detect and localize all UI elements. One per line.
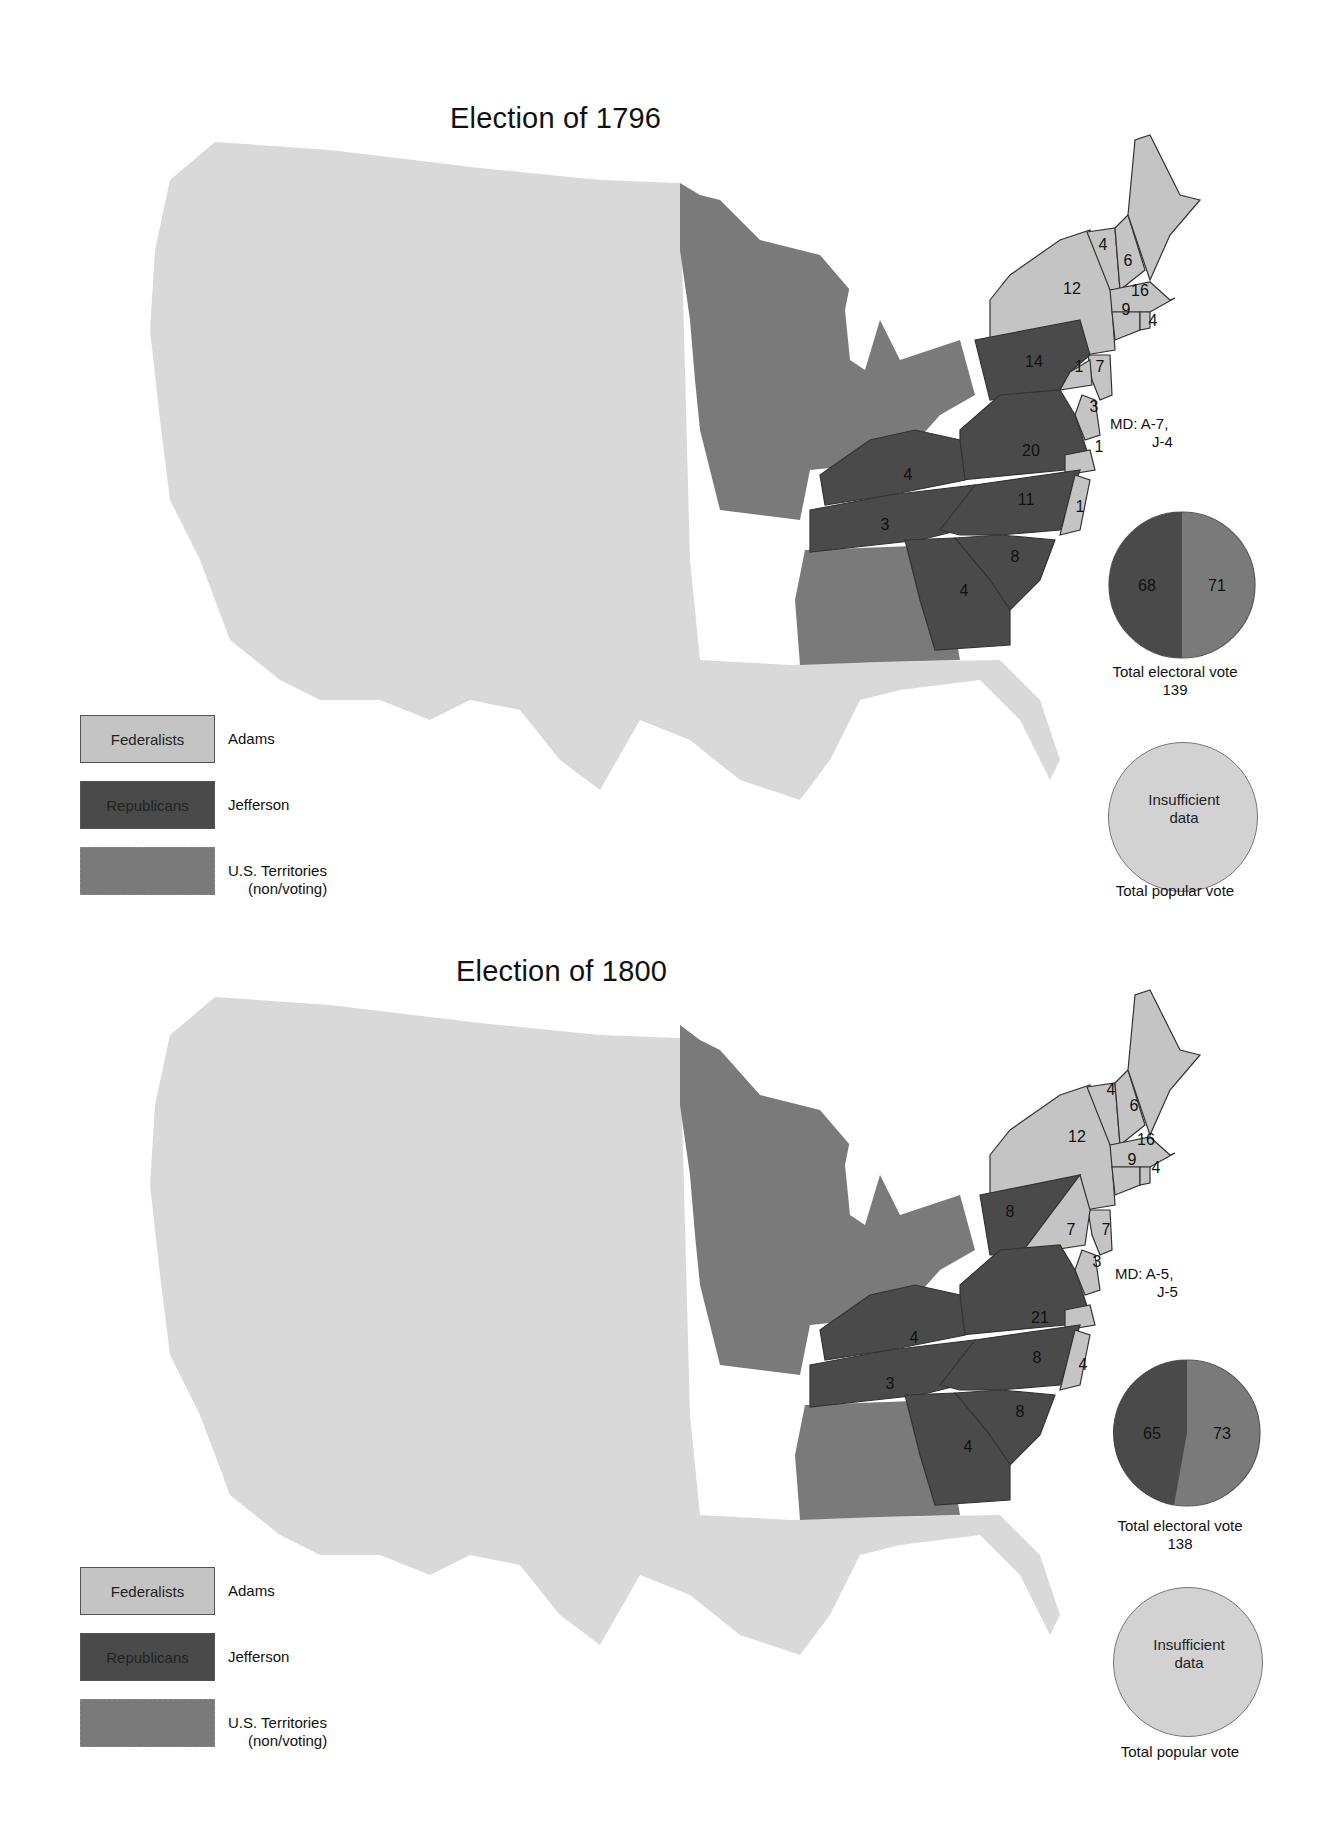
svg-text:4: 4	[960, 582, 969, 599]
svg-text:3: 3	[881, 516, 890, 533]
electoral-vote-label: Total electoral vote 139	[1090, 663, 1260, 699]
svg-text:1: 1	[1076, 498, 1085, 515]
svg-text:8: 8	[1016, 1403, 1025, 1420]
election-1800-panel: Election of 1800 4 6 12 16 9 4 8 7	[0, 855, 1335, 1755]
svg-text:4: 4	[1107, 1081, 1116, 1098]
svg-text:3: 3	[886, 1375, 895, 1392]
svg-text:4: 4	[904, 466, 913, 483]
maryland-split-note: MD: A-5, J-5	[1115, 1265, 1178, 1301]
svg-text:73: 73	[1213, 1425, 1231, 1442]
svg-text:4: 4	[1152, 1159, 1161, 1176]
svg-text:21: 21	[1031, 1309, 1049, 1326]
svg-text:9: 9	[1128, 1151, 1137, 1168]
svg-text:7: 7	[1102, 1221, 1111, 1238]
popular-vote-label: Total popular vote	[1095, 1743, 1265, 1760]
state-CT	[1112, 1167, 1140, 1195]
svg-text:4: 4	[964, 1438, 973, 1455]
svg-text:4: 4	[1149, 312, 1158, 329]
md-note-line1: MD: A-7,	[1110, 415, 1168, 432]
md-note-line2: J-4	[1110, 433, 1173, 451]
svg-text:68: 68	[1138, 577, 1156, 594]
federalists-swatch: Federalists	[80, 715, 215, 763]
svg-text:8: 8	[1006, 1203, 1015, 1220]
electoral-vote-pie: 65 73	[1112, 1358, 1262, 1508]
svg-text:4: 4	[910, 1329, 919, 1346]
svg-text:7: 7	[1067, 1221, 1076, 1238]
svg-text:1: 1	[1075, 358, 1084, 375]
election-1796-panel: Election of 1796	[0, 0, 1335, 900]
svg-text:16: 16	[1137, 1131, 1155, 1148]
svg-text:65: 65	[1143, 1425, 1161, 1442]
svg-text:3: 3	[1093, 1253, 1102, 1270]
electoral-vote-pie: 68 71	[1107, 510, 1257, 660]
electoral-total: 138	[1095, 1535, 1265, 1553]
svg-text:8: 8	[1011, 548, 1020, 565]
electoral-total: 139	[1090, 681, 1260, 699]
electoral-vote-label: Total electoral vote 138	[1095, 1517, 1265, 1553]
state-RI	[1140, 1167, 1150, 1185]
federalists-swatch: Federalists	[80, 1567, 215, 1615]
svg-text:71: 71	[1208, 577, 1226, 594]
svg-text:11: 11	[1018, 491, 1035, 508]
republicans-swatch: Republicans	[80, 1633, 215, 1681]
svg-text:12: 12	[1068, 1128, 1086, 1145]
svg-text:4: 4	[1099, 236, 1108, 253]
republicans-swatch: Republicans	[80, 781, 215, 829]
svg-text:4: 4	[1079, 1356, 1088, 1373]
svg-text:1: 1	[1095, 438, 1104, 455]
svg-text:7: 7	[1096, 358, 1105, 375]
svg-text:14: 14	[1025, 353, 1043, 370]
popular-vote-pie: Insufficient data	[1113, 1587, 1263, 1737]
maryland-split-note: MD: A-7, J-4	[1110, 415, 1173, 451]
svg-text:6: 6	[1130, 1097, 1139, 1114]
svg-text:9: 9	[1122, 301, 1131, 318]
svg-text:16: 16	[1131, 282, 1149, 299]
md-note-line1: MD: A-5,	[1115, 1265, 1173, 1282]
svg-text:6: 6	[1124, 252, 1133, 269]
svg-text:8: 8	[1033, 1349, 1042, 1366]
svg-text:12: 12	[1063, 280, 1081, 297]
territories-swatch	[80, 1699, 215, 1747]
svg-text:20: 20	[1022, 442, 1040, 459]
md-note-line2: J-5	[1115, 1283, 1178, 1301]
svg-text:3: 3	[1090, 398, 1099, 415]
